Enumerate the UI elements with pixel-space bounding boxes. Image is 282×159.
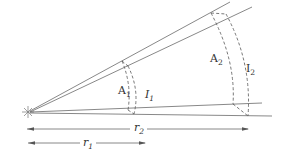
area2-top-connector bbox=[211, 13, 226, 14]
intensity1-label: I1 bbox=[144, 88, 154, 103]
area2-bottom-connector bbox=[233, 104, 248, 116]
distance2-label: r2 bbox=[134, 121, 144, 136]
lower-inner-ray bbox=[30, 103, 262, 112]
inverse-square-diagram: A1 I1 A2 I2 r2 r1 bbox=[0, 0, 282, 159]
intensity2-label: I2 bbox=[246, 62, 255, 77]
area2-label: A2 bbox=[209, 52, 223, 67]
baseline-ray bbox=[30, 113, 272, 116]
area1-bottom-connector bbox=[128, 110, 134, 114]
distance1-label: r1 bbox=[83, 136, 93, 151]
